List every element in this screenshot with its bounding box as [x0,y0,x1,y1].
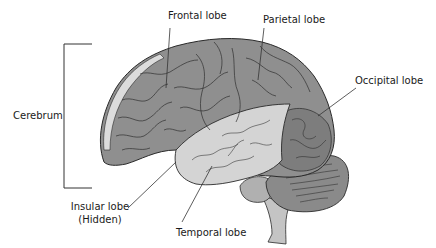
cerebrum-bracket [64,44,92,188]
label-frontal-lobe: Frontal lobe [168,10,227,22]
insular-leader [128,162,176,208]
label-parietal-lobe: Parietal lobe [263,14,325,26]
label-temporal-lobe: Temporal lobe [176,227,246,239]
label-occipital-lobe: Occipital lobe [355,75,423,87]
brain-illustration [0,0,436,248]
label-insular-hidden: (Hidden) [68,214,132,226]
label-insular-lobe: Insular lobe [68,201,132,213]
label-cerebrum: Cerebrum [13,110,63,122]
brain-diagram: Frontal lobe Parietal lobe Occipital lob… [0,0,436,248]
